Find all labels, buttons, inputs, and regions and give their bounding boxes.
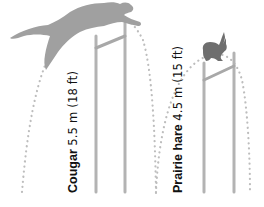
cougar-high-jump-frame — [96, 23, 125, 192]
cougar-name: Cougar — [66, 149, 80, 193]
hare-silhouette-icon — [203, 32, 227, 61]
jump-comparison-diagram: Cougar 5.5 m (18 ft) Prairie hare 4.5 m … — [0, 0, 264, 207]
cougar-jump-arc — [22, 12, 156, 193]
prairie-hare-jump-height: 4.5 m (15 ft) — [171, 46, 185, 121]
cougar-jump-height: 5.5 m (18 ft) — [66, 71, 80, 146]
prairie-hare-name: Prairie hare — [171, 124, 185, 193]
hare-high-jump-frame — [204, 53, 234, 192]
prairie-hare-label: Prairie hare 4.5 m (15 ft) — [171, 46, 185, 193]
diagram-graphics — [0, 0, 264, 207]
cougar-label: Cougar 5.5 m (18 ft) — [66, 71, 80, 193]
